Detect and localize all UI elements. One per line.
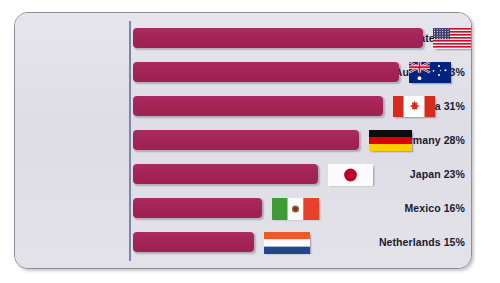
category-tick-label: Japan 23% [361,157,471,191]
chart-screenshot: United States 36% Australia 33% Canada 3… [0,0,500,283]
chart-row: United States 36% [15,21,471,55]
bar-united-states [133,28,423,48]
plot-area: United States 36% Australia 33% Canada 3… [15,13,471,268]
flag-japan-icon [328,164,373,185]
category-tick-label: Mexico 16% [361,191,471,225]
chart-row: Netherlands 15% [15,225,471,259]
bar-mexico [133,198,262,218]
bar-germany [133,130,359,150]
flag-germany-icon [369,130,412,151]
chart-row: Japan 23% [15,157,471,191]
category-tick-label: Netherlands 15% [361,225,471,259]
bar-australia [133,62,399,82]
bar-netherlands [133,232,254,252]
chart-row: Australia 33% [15,55,471,89]
chart-row: Germany 28% [15,123,471,157]
flag-mexico-icon [272,198,319,219]
chart-row: Mexico 16% [15,191,471,225]
flag-netherlands-icon [264,232,310,253]
flag-united-states-icon [433,28,472,49]
chart-panel: United States 36% Australia 33% Canada 3… [14,12,472,269]
bar-japan [133,164,318,184]
chart-row: Canada 31% [15,89,471,123]
flag-canada-icon [393,96,435,117]
bar-canada [133,96,383,116]
flag-australia-icon [409,62,451,83]
